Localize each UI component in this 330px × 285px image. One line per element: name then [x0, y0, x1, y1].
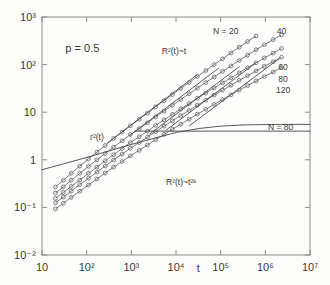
series-line — [55, 36, 256, 187]
annotation-r2-of-t: r²(t) — [90, 132, 104, 142]
x-tick-label: 10³ — [123, 261, 139, 273]
series-label: N = 20 — [213, 26, 239, 36]
y-tick-label: 10⁻¹ — [14, 201, 36, 213]
y-tick-label: 10 — [24, 106, 36, 118]
series-label: 40 — [277, 26, 287, 36]
annotation-p-value: p = 0.5 — [65, 42, 99, 54]
series-label: 80 — [278, 74, 288, 84]
x-axis-title: t — [197, 262, 200, 274]
series-label: 120 — [276, 85, 290, 95]
y-tick-label: 10³ — [20, 11, 36, 23]
data-point-marker — [54, 207, 58, 211]
slope1-guide-N80 — [166, 63, 255, 130]
x-tick-label: 10⁵ — [212, 261, 229, 273]
data-point-marker — [54, 196, 58, 200]
y-tick-label: 1 — [30, 154, 36, 166]
x-tick-label: 10 — [36, 261, 48, 273]
series-line — [55, 35, 281, 193]
data-point-marker — [54, 191, 58, 195]
x-tick-label: 10⁷ — [302, 261, 318, 273]
y-tick-label: 10² — [20, 59, 36, 71]
slope1-guide-N120 — [189, 59, 278, 126]
log-log-plot: 1010²10³10⁴10⁵10⁶10⁷10³10²10110⁻¹10⁻²tN … — [0, 0, 330, 285]
data-point-marker — [280, 47, 284, 51]
y-tick-label: 10⁻² — [14, 249, 36, 261]
figure-panel: 1010²10³10⁴10⁵10⁶10⁷10³10²10110⁻¹10⁻²tN … — [0, 0, 330, 285]
annotation-plateau-label: N = 80 — [268, 122, 294, 132]
data-point-marker — [54, 201, 58, 205]
x-tick-label: 10⁶ — [257, 261, 274, 273]
data-point-marker — [54, 185, 58, 189]
x-tick-label: 10⁴ — [168, 261, 185, 273]
annotation-R2-linear-regime: R²(t)~t — [162, 46, 187, 56]
x-tick-label: 10² — [79, 261, 95, 273]
data-point-marker — [254, 34, 258, 38]
annotation-R2-anomalous-regime: R²(t)~t²ᵏ — [166, 177, 196, 187]
